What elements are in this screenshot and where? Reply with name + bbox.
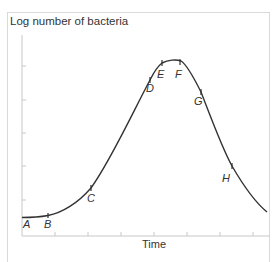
point-label-g: G: [194, 96, 203, 107]
point-label-f: F: [175, 69, 182, 80]
point-label-c: C: [87, 193, 95, 204]
point-label-b: B: [44, 219, 51, 230]
point-label-e: E: [157, 69, 164, 80]
growth-curve: [22, 60, 267, 218]
x-axis-ticks: [55, 232, 253, 236]
point-label-a: A: [23, 219, 30, 230]
point-marks: [48, 59, 232, 218]
point-label-h: H: [222, 173, 230, 184]
point-label-d: D: [146, 83, 154, 94]
y-axis-ticks: [22, 66, 26, 200]
x-axis-label: Time: [142, 238, 166, 250]
